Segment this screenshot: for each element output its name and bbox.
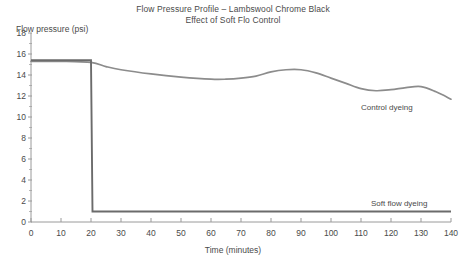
y-tick-label-6: 6	[4, 154, 26, 164]
x-axis-ticks	[31, 218, 451, 222]
y-tick-label-0: 0	[4, 217, 26, 227]
x-tick-label-30: 30	[109, 228, 133, 238]
y-tick-label-14: 14	[4, 70, 26, 80]
x-tick-label-100: 100	[319, 228, 343, 238]
y-tick-label-8: 8	[4, 133, 26, 143]
plot-area	[0, 0, 466, 266]
x-tick-label-20: 20	[79, 228, 103, 238]
y-tick-label-16: 16	[4, 49, 26, 59]
series-line-soft-flow-dyeing	[31, 60, 451, 211]
chart-figure: Flow Pressure Profile – Lambswool Chrome…	[0, 0, 466, 266]
y-tick-label-2: 2	[4, 196, 26, 206]
x-tick-label-140: 140	[439, 228, 463, 238]
x-tick-label-120: 120	[379, 228, 403, 238]
x-tick-label-60: 60	[199, 228, 223, 238]
chart-title: Flow Pressure Profile – Lambswool Chrome…	[0, 4, 466, 26]
y-tick-label-4: 4	[4, 175, 26, 185]
axis-lines	[31, 33, 451, 222]
x-tick-label-40: 40	[139, 228, 163, 238]
y-tick-label-12: 12	[4, 91, 26, 101]
chart-title-line1: Flow Pressure Profile – Lambswool Chrome…	[0, 4, 466, 15]
x-tick-label-70: 70	[229, 228, 253, 238]
series-line-control-dyeing	[31, 61, 451, 99]
x-tick-label-130: 130	[409, 228, 433, 238]
y-axis-title: Flow pressure (psi)	[16, 24, 88, 34]
x-tick-label-90: 90	[289, 228, 313, 238]
series-label-soft-flow-dyeing: Soft flow dyeing	[371, 199, 427, 208]
x-tick-label-50: 50	[169, 228, 193, 238]
x-axis-title: Time (minutes)	[0, 245, 466, 255]
y-tick-label-18: 18	[4, 28, 26, 38]
y-tick-label-10: 10	[4, 112, 26, 122]
x-tick-label-0: 0	[19, 228, 43, 238]
series-label-control-dyeing: Control dyeing	[361, 103, 413, 112]
x-tick-label-10: 10	[49, 228, 73, 238]
x-tick-label-80: 80	[259, 228, 283, 238]
x-tick-label-110: 110	[349, 228, 373, 238]
